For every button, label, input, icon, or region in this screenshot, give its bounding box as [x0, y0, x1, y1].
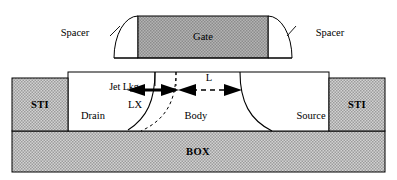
sti-left-label: STI	[31, 99, 49, 110]
source-label: Source	[296, 110, 325, 121]
sti-right-label: STI	[348, 99, 366, 110]
silicon-island-shape	[68, 72, 329, 131]
diagram-canvas: Spacer Spacer Gate STI STI Drain Body So…	[0, 0, 397, 180]
spacer-right-leader	[287, 26, 296, 36]
l-label: L	[206, 72, 212, 83]
spacer-left-shape	[114, 16, 138, 58]
spacer-right-shape	[268, 16, 292, 58]
box-label: BOX	[186, 146, 210, 157]
lx-label: LX	[128, 99, 142, 110]
drain-label: Drain	[81, 110, 106, 121]
soi-mosfet-cross-section-figure: Spacer Spacer Gate STI STI Drain Body So…	[0, 0, 397, 180]
spacer-left-label: Spacer	[61, 27, 90, 38]
jet-lkg-label: Jet Lkg	[109, 81, 139, 92]
gate-label: Gate	[193, 31, 213, 42]
spacer-right-label: Spacer	[316, 27, 345, 38]
body-label: Body	[185, 110, 209, 121]
